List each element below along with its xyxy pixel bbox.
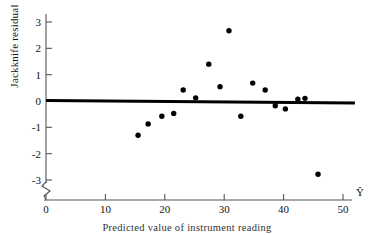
figure-caption: Predicted value of instrument reading <box>0 222 374 235</box>
data-point <box>217 84 222 89</box>
y-axis-tick-label: 3 <box>36 16 42 28</box>
scatter-plot-figure: -3-2-1012301020304050Ŷ Jackknife residua… <box>0 0 374 235</box>
y-axis-title: Jackknife residual <box>8 0 24 106</box>
y-axis-tick-label: -1 <box>32 121 41 133</box>
data-point <box>135 133 140 138</box>
data-point <box>315 172 320 177</box>
data-point <box>262 87 267 92</box>
y-axis-tick-label: -2 <box>32 148 41 160</box>
x-axis-tick-label: 30 <box>219 203 231 215</box>
x-axis-tick-label: 0 <box>43 203 49 215</box>
data-point <box>238 114 243 119</box>
x-axis-tick-label: 20 <box>159 203 171 215</box>
zero-reference-line <box>46 101 355 104</box>
y-axis-tick-label: 1 <box>36 69 42 81</box>
x-axis-symbol-label: Ŷ <box>356 186 364 198</box>
x-axis-tick-label: 40 <box>278 203 290 215</box>
data-point <box>273 103 278 108</box>
x-axis-tick-label: 50 <box>338 203 350 215</box>
data-point <box>302 96 307 101</box>
figure-caption-text: Predicted value of instrument reading <box>102 222 271 233</box>
plot-canvas: -3-2-1012301020304050Ŷ <box>0 0 374 235</box>
y-axis-tick-label: -3 <box>32 174 42 186</box>
data-point <box>226 28 231 33</box>
data-point <box>193 95 198 100</box>
y-axis-tick-label: 0 <box>36 95 42 107</box>
data-point <box>145 121 150 126</box>
data-point <box>171 111 176 116</box>
data-point <box>206 61 211 66</box>
data-point <box>250 80 255 85</box>
data-point <box>181 87 186 92</box>
y-axis-tick-label: 2 <box>36 42 42 54</box>
data-point <box>159 114 164 119</box>
y-axis-title-text: Jackknife residual <box>8 4 20 87</box>
data-point <box>283 106 288 111</box>
data-point <box>295 96 300 101</box>
x-axis-tick-label: 10 <box>100 203 112 215</box>
